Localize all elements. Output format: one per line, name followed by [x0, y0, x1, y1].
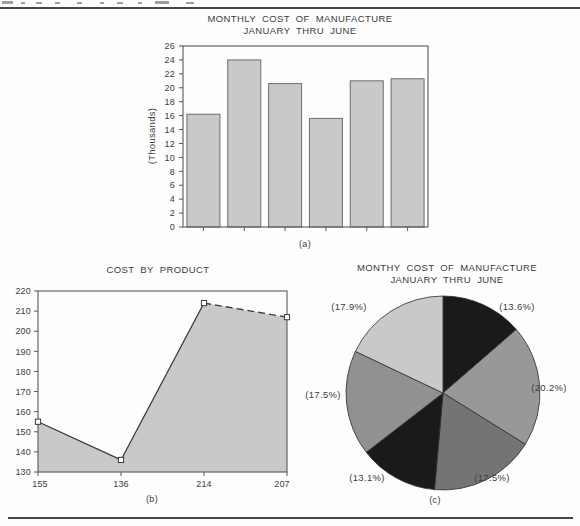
pie-slice-label: (13.6%) [499, 301, 534, 312]
x-tick-label: 136 [113, 479, 129, 489]
y-tick-label: 210 [15, 306, 31, 316]
y-tick-label: 12 [165, 139, 175, 149]
y-tick-label: 24 [165, 55, 175, 65]
y-tick-label: 26 [165, 41, 175, 51]
caption-c: (c) [429, 495, 440, 505]
y-tick-label: 8 [170, 167, 175, 177]
y-tick-label: 170 [15, 387, 31, 397]
y-tick-label: 4 [170, 194, 175, 204]
y-tick-label: 200 [15, 326, 31, 336]
y-tick-label: 130 [15, 467, 31, 477]
y-tick-label: 16 [165, 111, 175, 121]
y-tick-label: 20 [165, 83, 175, 93]
y-tick-label: 160 [15, 407, 31, 417]
y-tick-label: 150 [15, 427, 31, 437]
x-tick-label: 155 [32, 479, 48, 489]
pie-slice-label: (17.9%) [331, 301, 366, 312]
data-point-marker [201, 300, 206, 305]
bar [269, 84, 302, 227]
y-tick-label: 2 [170, 208, 175, 218]
bar [187, 114, 220, 227]
area-fill [38, 303, 287, 472]
bar [391, 79, 424, 227]
pie-slice-label: (20.2%) [531, 382, 566, 393]
caption-b: (b) [146, 494, 158, 504]
scanned-chart-page: MONTHLY COST OF MANUFACTURE JANUARY THRU… [0, 0, 580, 526]
y-tick-label: 6 [170, 180, 175, 190]
charts-canvas: 0246810121416182022242613014015016017018… [0, 0, 580, 526]
y-tick-label: 0 [170, 222, 175, 232]
y-tick-label: 14 [165, 125, 175, 135]
data-point-marker [284, 315, 289, 320]
y-tick-label: 10 [165, 153, 175, 163]
caption-a: (a) [299, 239, 311, 249]
pie-slice-label: (17.5%) [474, 472, 509, 483]
bar [309, 118, 342, 227]
y-tick-label: 220 [15, 286, 31, 296]
bar [228, 60, 261, 227]
pie-slice-label: (17.5%) [305, 389, 340, 400]
y-tick-label: 18 [165, 97, 175, 107]
y-tick-label: 180 [15, 367, 31, 377]
data-point-marker [118, 457, 123, 462]
data-point-marker [35, 419, 40, 424]
pie-slice-label: (13.1%) [349, 472, 384, 483]
x-tick-label: 214 [196, 479, 212, 489]
bar [350, 81, 383, 227]
y-tick-label: 22 [165, 69, 175, 79]
y-tick-label: 190 [15, 347, 31, 357]
y-tick-label: 140 [15, 447, 31, 457]
x-tick-label: 207 [274, 479, 290, 489]
